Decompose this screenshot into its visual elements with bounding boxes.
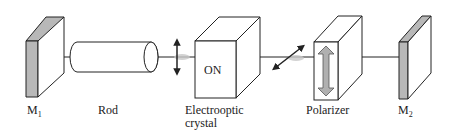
m2-label: M2 <box>398 104 413 121</box>
polarizer <box>314 16 362 100</box>
crystal-label: Electrooptic crystal <box>185 104 244 130</box>
polarizer-label: Polarizer <box>306 104 349 117</box>
laser-rod <box>70 42 158 72</box>
mirror-m1 <box>26 17 64 97</box>
crystal-state-label: ON <box>204 64 221 77</box>
rod-label: Rod <box>98 104 118 117</box>
electrooptic-crystal <box>195 17 260 98</box>
m1-label: M1 <box>27 104 42 121</box>
mirror-m2 <box>399 16 431 99</box>
